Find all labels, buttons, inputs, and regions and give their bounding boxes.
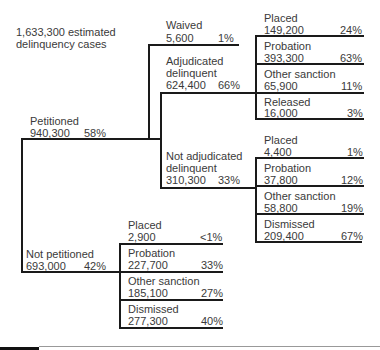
nonadj-probation-line <box>255 185 364 187</box>
adj-other-count: 65,900 <box>264 80 298 92</box>
nonadj-dismissed-label: Dismissed <box>264 218 315 230</box>
waived-label: Waived <box>166 19 202 31</box>
adjudication-vertical-line <box>160 92 162 189</box>
notpet-children-vertical-line <box>119 243 121 329</box>
nonadj-placed-line <box>255 157 364 159</box>
footer-rule <box>39 346 380 347</box>
petitioned-label: Petitioned <box>30 115 79 127</box>
notpet-probation-label: Probation <box>128 247 175 259</box>
notpet-probation-line <box>119 271 223 273</box>
nonadj-placed-label: Placed <box>264 134 298 146</box>
notpet-placed-pct: <1% <box>200 231 222 243</box>
petitioned-line <box>21 138 161 140</box>
nonadj-other-line <box>255 213 364 215</box>
root-title-line1: 1,633,300 estimated <box>16 26 116 38</box>
adj-probation-label: Probation <box>264 40 311 52</box>
adjudicated-line <box>160 92 257 94</box>
adj-other-line <box>255 92 364 94</box>
notpet-dismissed-label: Dismissed <box>128 303 179 315</box>
waived-line <box>148 44 239 46</box>
nonadj-children-vertical-line <box>255 157 257 243</box>
not-adjudicated-label2: delinquent <box>166 162 217 174</box>
notpet-placed-count: 2,900 <box>128 231 156 243</box>
adj-placed-line <box>255 35 364 37</box>
nonadj-dismissed-line <box>255 241 362 243</box>
adj-other-pct: 11% <box>341 80 362 92</box>
waived-vertical-line <box>148 44 150 140</box>
root-title-line2: delinquency cases <box>16 38 107 50</box>
notpet-placed-label: Placed <box>128 219 162 231</box>
adj-placed-label: Placed <box>264 12 298 24</box>
not-adjudicated-count: 310,300 <box>166 174 206 186</box>
notpet-other-count: 185,100 <box>128 287 168 299</box>
adj-children-vertical-line <box>255 35 257 120</box>
adjudicated-label2: delinquent <box>166 67 217 79</box>
adj-released-line <box>255 118 364 120</box>
not-petitioned-label: Not petitioned <box>26 248 94 260</box>
notpet-probation-count: 227,700 <box>128 259 168 271</box>
adjudicated-pct: 66% <box>218 79 240 91</box>
not-adjudicated-line <box>160 187 257 189</box>
notpet-other-label: Other sanction <box>128 275 200 287</box>
notpet-dismissed-pct: 40% <box>201 315 223 327</box>
nonadj-probation-label: Probation <box>264 162 311 174</box>
waived-pct: 1% <box>218 32 234 44</box>
adjudicated-label1: Adjudicated <box>166 55 224 67</box>
adj-probation-line <box>255 63 364 65</box>
root-vertical-line <box>21 138 23 273</box>
notpet-other-line <box>119 299 223 301</box>
adjudicated-count: 624,400 <box>166 79 206 91</box>
not-petitioned-line <box>21 271 121 273</box>
notpet-probation-pct: 33% <box>201 259 223 271</box>
notpet-dismissed-count: 277,300 <box>128 315 168 327</box>
not-adjudicated-pct: 33% <box>218 174 240 186</box>
notpet-dismissed-line <box>119 327 223 329</box>
not-adjudicated-label1: Not adjudicated <box>166 150 242 162</box>
adj-other-label: Other sanction <box>264 68 336 80</box>
notpet-placed-line <box>119 243 223 245</box>
nonadj-other-label: Other sanction <box>264 190 336 202</box>
notpet-other-pct: 27% <box>201 287 223 299</box>
waived-count: 5,600 <box>166 32 194 44</box>
